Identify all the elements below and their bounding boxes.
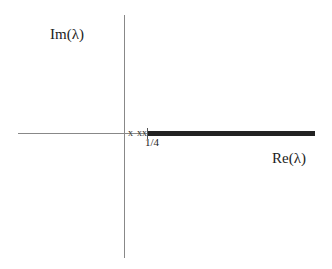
imaginary-axis-label: Im(λ) — [50, 26, 84, 43]
tick-label-quarter: 1/4 — [145, 136, 159, 148]
real-axis-label: Re(λ) — [272, 150, 306, 167]
eigenvalue-x-mark: x — [128, 127, 133, 138]
eigenvalue-x-mark: x — [142, 127, 147, 138]
continuous-spectrum-line — [148, 131, 315, 136]
